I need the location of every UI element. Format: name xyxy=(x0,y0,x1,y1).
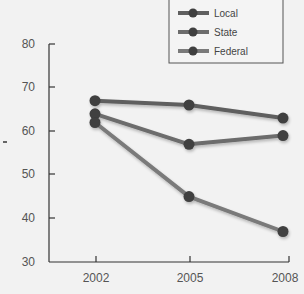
data-point-local-2002 xyxy=(90,95,101,106)
data-point-local-2005 xyxy=(184,100,195,111)
series-group xyxy=(90,95,289,237)
y-tick-80: 80 xyxy=(22,37,36,51)
legend: Local State Federal xyxy=(169,0,283,63)
line-chart: 80 70 60 50 40 30 2002 2005 2008 Local S… xyxy=(0,0,304,294)
x-tick-2002: 2002 xyxy=(83,271,110,285)
x-axis: 2002 2005 2008 xyxy=(49,256,299,285)
y-axis-label-fragment xyxy=(3,141,7,143)
legend-label-local: Local xyxy=(214,8,238,19)
legend-label-state: State xyxy=(214,27,238,38)
series-local xyxy=(90,95,289,123)
data-point-federal-2008 xyxy=(278,226,289,237)
data-point-federal-2002 xyxy=(90,117,101,128)
y-tick-30: 30 xyxy=(22,255,36,269)
y-tick-70: 70 xyxy=(22,80,36,94)
y-axis: 80 70 60 50 40 30 xyxy=(22,37,55,269)
x-tick-2008: 2008 xyxy=(272,271,299,285)
data-point-state-2005 xyxy=(184,139,195,150)
y-tick-40: 40 xyxy=(22,211,36,225)
legend-label-federal: Federal xyxy=(214,46,248,57)
data-point-federal-2005 xyxy=(184,191,195,202)
data-point-local-2008 xyxy=(278,113,289,124)
data-point-state-2008 xyxy=(278,130,289,141)
y-tick-60: 60 xyxy=(22,124,36,138)
y-tick-50: 50 xyxy=(22,167,36,181)
x-tick-2005: 2005 xyxy=(177,271,204,285)
series-federal xyxy=(90,117,289,237)
